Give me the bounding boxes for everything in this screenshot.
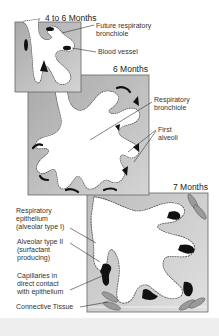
label-first-alveoli: First alveoli [158, 126, 178, 142]
lung-development-diagram: 4 to 6 Months 6 Months 7 Months Future r… [0, 0, 219, 336]
panel-title-6-months: 6 Months [113, 64, 148, 74]
panel-6-months [28, 75, 149, 195]
footer-strip [0, 318, 219, 336]
label-alveolar-type-ii: Alveolar type II (surfactant producing) [17, 238, 63, 262]
label-future-respiratory-bronchiole: Future respiratory bronchiole [96, 22, 151, 38]
label-respiratory-bronchiole: Respiratory bronchiole [154, 96, 190, 112]
label-respiratory-epithelium: Respiratory epithelium (alveolar type I) [16, 207, 64, 231]
panel-7-months [87, 193, 208, 312]
label-capillaries: Capillaries in direct contact with epith… [17, 272, 63, 296]
label-connective-tissue: Connective Tissue [16, 303, 73, 311]
panel-title-7-months: 7 Months [173, 182, 208, 192]
label-blood-vessel: Blood vessel [98, 48, 138, 56]
panel-title-4-to-6-months: 4 to 6 Months [45, 13, 97, 23]
